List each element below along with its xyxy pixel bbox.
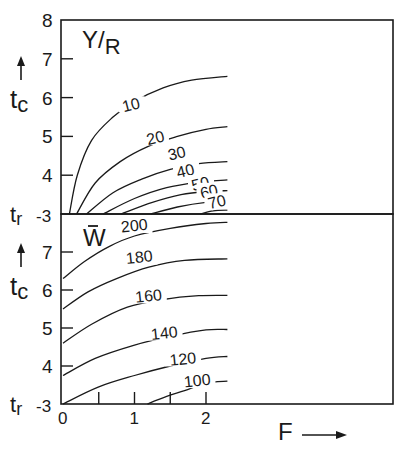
y-tick-label: 7	[42, 49, 53, 70]
top-panel-yield-per-recruit: 87654tr-3tcY/R10203040506070	[10, 10, 393, 229]
contour-label: 160	[134, 286, 162, 306]
contour-figure: 87654tr-3tcY/R10203040506070 7654tr-3tcW…	[0, 0, 402, 452]
y-tick-label: 8	[42, 10, 53, 31]
bottom-panel-mean-weight: 7654tr-3tcW012200180160140120100	[10, 214, 393, 428]
panel-title-mean-weight: W	[83, 224, 106, 251]
contour-label: 100	[183, 371, 211, 391]
plot-frame	[61, 214, 393, 404]
contour-label: 120	[169, 349, 197, 369]
contour-140: 140	[63, 323, 227, 375]
panel-title-yield-per-recruit: Y/R	[82, 26, 121, 59]
x-axis-label: F	[278, 418, 293, 445]
x-tick-label: 0	[58, 409, 67, 428]
y-tick-label: 4	[42, 165, 53, 186]
x-tick-label: 2	[201, 409, 210, 428]
y-tick-label: 4	[42, 356, 53, 377]
contour-100: 100	[147, 371, 227, 404]
up-arrow-icon	[17, 56, 25, 80]
right-arrow-icon	[302, 431, 347, 439]
contour-160: 160	[63, 286, 227, 343]
y-axis-label-tc: tc	[10, 84, 28, 117]
contour-label: 200	[120, 216, 148, 236]
axes-labels: F	[278, 418, 347, 445]
y-tick-label: 7	[42, 242, 53, 263]
x-tick-label: 1	[130, 409, 139, 428]
baseline-label-tr: tr	[10, 202, 22, 229]
contour-70: 70	[200, 191, 230, 214]
contour-label: 180	[125, 247, 153, 267]
up-arrow-icon	[17, 243, 25, 267]
y-tick-label: 6	[42, 280, 53, 301]
baseline-value: -3	[36, 207, 51, 226]
y-tick-label: 5	[42, 126, 53, 147]
y-tick-label: 6	[42, 88, 53, 109]
y-axis-label-tc: tc	[10, 271, 28, 304]
baseline-value: -3	[36, 397, 51, 416]
contour-label: 140	[150, 323, 178, 343]
y-tick-label: 5	[42, 318, 53, 339]
baseline-label-tr: tr	[10, 392, 22, 419]
